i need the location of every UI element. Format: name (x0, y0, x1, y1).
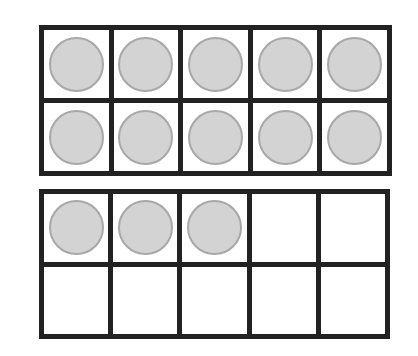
counter-circle-icon (118, 200, 173, 255)
frame-cell (113, 194, 177, 262)
frame-cell (44, 103, 109, 171)
counter-circle-icon (327, 110, 382, 165)
counter-circle-icon (49, 37, 104, 92)
frame-cell (321, 267, 385, 335)
frame-cell (44, 30, 109, 98)
frame-cell (183, 103, 248, 171)
frame-cell (44, 267, 108, 335)
counter-circle-icon (118, 110, 173, 165)
counter-circle-icon (327, 37, 382, 92)
frame-cell (114, 103, 179, 171)
frame-cell (44, 194, 108, 262)
frame-cell (114, 30, 179, 98)
counter-circle-icon (49, 200, 104, 255)
counter-circle-icon (258, 37, 313, 92)
frame-cell (182, 194, 246, 262)
frame-cell (252, 267, 316, 335)
frame-cell (252, 194, 316, 262)
frame-cell (322, 103, 387, 171)
frame-cell (253, 30, 318, 98)
frame-cell (183, 30, 248, 98)
counter-circle-icon (118, 37, 173, 92)
counter-circle-icon (187, 200, 242, 255)
frame-cell (253, 103, 318, 171)
counter-circle-icon (258, 110, 313, 165)
frame-cell (113, 267, 177, 335)
frame-cell (321, 194, 385, 262)
counter-circle-icon (49, 110, 104, 165)
ten-frame-2 (39, 189, 390, 339)
counter-circle-icon (188, 37, 243, 92)
ten-frame-1 (39, 25, 392, 176)
frame-cell (182, 267, 246, 335)
frame-cell (322, 30, 387, 98)
counter-circle-icon (188, 110, 243, 165)
